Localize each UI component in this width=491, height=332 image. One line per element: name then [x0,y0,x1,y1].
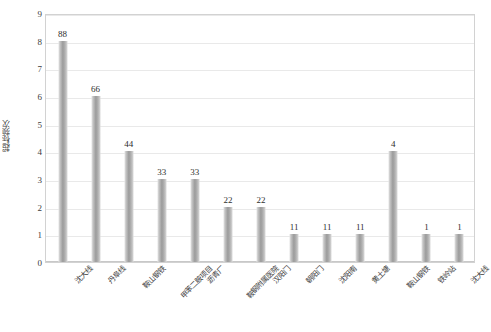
bar-slot: 11 [344,15,377,262]
bar-slot: 44 [112,15,145,262]
bar-value-label: 66 [91,84,100,94]
y-axis-tick-5: 5 [20,121,42,130]
y-axis-tick-6: 6 [20,93,42,102]
bar[interactable] [290,234,299,262]
bar-value-label: 22 [223,195,232,205]
bar-slot: 11 [278,15,311,262]
y-axis-tick-7: 7 [20,65,42,74]
x-axis-label: 沈大线 [471,265,491,286]
y-axis-tick-9: 9 [20,10,42,19]
bar-slot: 22 [244,15,277,262]
bar[interactable] [389,151,398,262]
x-axis-label: 朝阳门 [305,265,326,286]
plot-area: 88664433332222111111411 [45,14,475,263]
x-axis-label: 沈阳南 [338,265,359,286]
bar-value-label: 11 [290,222,299,232]
bars-layer: 88664433332222111111411 [46,15,474,262]
y-axis-tick-1: 1 [20,231,42,240]
bar[interactable] [157,179,166,262]
x-axis-label: 铁岭站 [438,265,459,286]
bar-slot: 1 [443,15,476,262]
bar-slot: 22 [211,15,244,262]
bar-value-label: 44 [124,139,133,149]
bar-value-label: 11 [356,222,365,232]
bar[interactable] [124,151,133,262]
x-axis-label: 丹阜线 [107,265,128,286]
bar-value-label: 22 [256,195,265,205]
y-axis-tick-2: 2 [20,204,42,213]
x-axis-label: 鞍山钢铁 [142,265,167,290]
bar[interactable] [356,234,365,262]
bar[interactable] [323,234,332,262]
bar-value-label: 1 [457,222,462,232]
x-axis-category-labels: 沈大线丹阜线鞍山钢铁甲苯二胺项目沥青厂鞍钢附属医院汉阳门朝阳门沈阳南黄土塘鞍山钢… [45,265,475,332]
bar[interactable] [256,207,265,262]
bar-value-label: 33 [190,167,199,177]
bar-value-label: 1 [424,222,429,232]
bar-slot: 1 [410,15,443,262]
bar-value-label: 4 [391,139,396,149]
bar[interactable] [422,234,431,262]
bar-slot: 4 [377,15,410,262]
y-axis-tick-8: 8 [20,38,42,47]
y-axis-tick-4: 4 [20,148,42,157]
bar[interactable] [91,96,100,262]
x-axis-label: 沈大线 [74,265,95,286]
bar[interactable] [455,234,464,262]
bar-value-label: 88 [58,29,67,39]
bar[interactable] [58,41,67,262]
bar[interactable] [223,207,232,262]
bar-slot: 33 [145,15,178,262]
y-axis-title: 超标频次 [2,120,18,152]
x-axis-label: 鞍山钢铁 [406,265,431,290]
bar-slot: 66 [79,15,112,262]
y-axis-tick-labels: 9876543210 [20,0,42,265]
bar-value-label: 33 [157,167,166,177]
bar-slot: 33 [178,15,211,262]
bar-slot: 88 [46,15,79,262]
y-axis-tick-3: 3 [20,176,42,185]
bar-slot: 11 [311,15,344,262]
x-axis-label: 黄土塘 [371,265,392,286]
y-axis-tick-0: 0 [20,259,42,268]
bar[interactable] [190,179,199,262]
bar-value-label: 11 [323,222,332,232]
